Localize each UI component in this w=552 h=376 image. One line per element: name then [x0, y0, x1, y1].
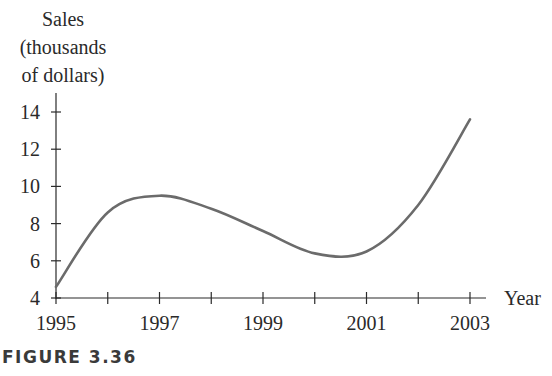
y-tick-label: 6: [30, 250, 40, 272]
y-tick-label: 12: [20, 138, 40, 160]
y-tick-label: 8: [30, 213, 40, 235]
y-axis-label-line-3: of dollars): [22, 64, 105, 87]
y-tick-label: 14: [20, 101, 40, 123]
figure-caption: FIGURE 3.36: [2, 347, 137, 367]
x-axis-label: Year: [504, 287, 541, 309]
sales-curve: [56, 119, 470, 286]
x-tick-label: 2001: [347, 312, 387, 334]
x-tick-label: 1999: [243, 312, 283, 334]
x-tick-label: 2003: [450, 312, 490, 334]
y-axis-label-line-2: (thousands: [20, 36, 107, 59]
x-tick-label: 1995: [36, 312, 76, 334]
y-axis-label-line-1: Sales: [42, 8, 84, 30]
x-tick-label: 1997: [140, 312, 180, 334]
y-tick-label: 4: [30, 287, 40, 309]
chart: Sales (thousands of dollars) 468101214 1…: [0, 0, 552, 376]
y-tick-label: 10: [20, 175, 40, 197]
y-ticks: 468101214: [20, 101, 61, 309]
